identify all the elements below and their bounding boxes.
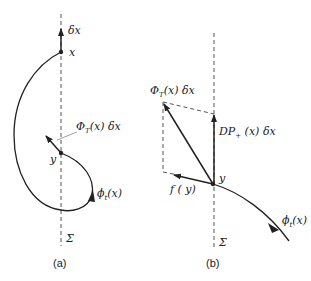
label-phi-T: ΦT(x) δx	[76, 120, 122, 135]
label-y: y	[218, 172, 226, 185]
label-phi-T: ΦT(x) δx	[150, 84, 196, 99]
point-y	[59, 151, 63, 155]
label-sigma: Σ	[65, 232, 74, 245]
label-dp: DP+ (x) δx	[218, 125, 277, 140]
label-x: x	[69, 46, 76, 59]
leader-line	[57, 132, 77, 140]
label-y: y	[49, 153, 57, 166]
label-delta-x: δx	[68, 24, 82, 37]
flow-direction-arrow	[268, 223, 279, 233]
orbit-curve	[213, 184, 289, 241]
label-sigma: Σ	[218, 236, 227, 249]
parallelogram-top	[163, 102, 214, 114]
point-y	[211, 182, 215, 186]
panel-a: δx x ΦT(x) δx y ϕt(x) Σ (a)	[14, 14, 122, 269]
label-f-y: f ( y)	[169, 183, 196, 196]
parallelogram-bottom	[163, 172, 178, 175]
phi-T-arrow	[164, 104, 213, 184]
caption-b: (b)	[206, 257, 219, 269]
phi-T-arrow	[46, 136, 61, 153]
label-phi-t: ϕt(x)	[97, 187, 122, 202]
label-phi-t: ϕt(x)	[282, 214, 307, 229]
flow-direction-arrow	[88, 190, 95, 202]
caption-a: (a)	[53, 257, 66, 269]
diagram-canvas: δx x ΦT(x) δx y ϕt(x) Σ (a) ΦT(x) δx DP+…	[0, 0, 311, 281]
panel-b: ΦT(x) δx DP+ (x) δx f ( y) y ϕt(x) Σ (b)	[150, 33, 307, 269]
point-x	[59, 50, 63, 54]
